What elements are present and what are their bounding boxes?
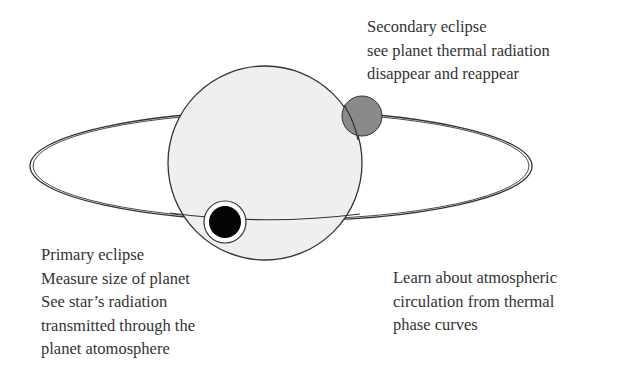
label-line: Measure size of planet xyxy=(41,267,195,291)
primary-eclipse-planet xyxy=(204,201,246,243)
secondary-eclipse-label: Secondary eclipse see planet thermal rad… xyxy=(367,15,550,86)
primary-eclipse-label: Primary eclipse Measure size of planet S… xyxy=(41,243,195,361)
label-line: Primary eclipse xyxy=(41,243,195,267)
label-line: planet atomosphere xyxy=(41,337,195,361)
secondary-eclipse-planet xyxy=(342,96,382,136)
star xyxy=(168,66,362,260)
label-line: circulation from thermal xyxy=(393,290,557,314)
label-line: phase curves xyxy=(393,313,557,337)
phase-curve-label: Learn about atmospheric circulation from… xyxy=(393,266,557,337)
label-line: transmitted through the xyxy=(41,314,195,338)
label-line: See star’s radiation xyxy=(41,290,195,314)
label-line: Secondary eclipse xyxy=(367,15,550,39)
label-line: see planet thermal radiation xyxy=(367,39,550,63)
label-line: disappear and reappear xyxy=(367,62,550,86)
label-line: Learn about atmospheric xyxy=(393,266,557,290)
